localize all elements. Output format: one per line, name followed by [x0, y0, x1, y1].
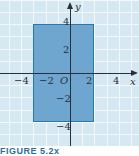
y-tick-label: 2: [63, 45, 69, 55]
x-axis: [0, 73, 134, 74]
origin-label: O: [60, 76, 68, 86]
x-tick-label: 4: [113, 76, 119, 86]
y-tick-label: 4: [63, 17, 69, 27]
x-tick-label: −4: [14, 76, 29, 86]
y-axis-label: y: [75, 2, 81, 12]
coordinate-plane: x y O −4 −2 2 4 4 2 −2 −4: [0, 0, 139, 146]
x-axis-label: x: [130, 77, 136, 87]
figure-caption: FIGURE 5.2x: [0, 146, 60, 156]
y-axis-arrow-icon: [67, 2, 73, 9]
y-tick-label: −4: [56, 122, 71, 132]
x-tick-label: −2: [39, 76, 54, 86]
x-tick-label: 2: [86, 76, 92, 86]
y-tick-label: −2: [56, 94, 71, 104]
